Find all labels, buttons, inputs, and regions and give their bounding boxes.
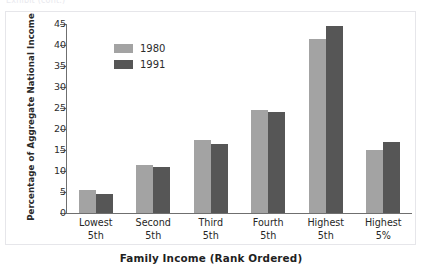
bar-group (366, 24, 400, 213)
x-tick-label: Lowest5th (67, 216, 125, 242)
x-tick-label: Highest5% (355, 216, 413, 242)
y-tick-label: 0 (38, 207, 66, 218)
y-axis-title: Percentage of Aggregate National Income (26, 12, 36, 222)
y-tick-label: 20 (38, 123, 66, 134)
bar (79, 190, 96, 213)
bar-group (136, 24, 170, 213)
bar (326, 26, 343, 213)
x-axis-title: Family Income (Rank Ordered) (0, 252, 422, 264)
y-tick-label: 45 (38, 18, 66, 29)
bar (136, 165, 153, 213)
bar (309, 39, 326, 213)
x-tick-label: Second5th (125, 216, 183, 242)
plot-area (67, 24, 412, 213)
bar (194, 140, 211, 214)
y-tick-label: 5 (38, 186, 66, 197)
chart-figure: Exhibit (cont.) Percentage of Aggregate … (0, 0, 422, 278)
top-caption: Exhibit (cont.) (6, 0, 206, 6)
bar (153, 167, 170, 213)
y-tick-label: 30 (38, 81, 66, 92)
y-tick-label: 25 (38, 102, 66, 113)
y-tick-label: 10 (38, 165, 66, 176)
bar (268, 112, 285, 213)
x-tick-label: Highest5th (297, 216, 355, 242)
bar-group (309, 24, 343, 213)
x-tick-label: Third5th (182, 216, 240, 242)
bar (211, 144, 228, 213)
bar (383, 142, 400, 213)
bar-group (79, 24, 113, 213)
bar (96, 194, 113, 213)
x-tick-label: Fourth5th (240, 216, 298, 242)
bar (251, 110, 268, 213)
bar-group (251, 24, 285, 213)
bar-group (194, 24, 228, 213)
y-tick-label: 15 (38, 144, 66, 155)
x-axis-line (66, 213, 412, 214)
bar (366, 150, 383, 213)
x-axis-tick-labels: Lowest5thSecond5thThird5thFourth5thHighe… (67, 216, 412, 248)
y-tick-label: 40 (38, 39, 66, 50)
y-tick-label: 35 (38, 60, 66, 71)
